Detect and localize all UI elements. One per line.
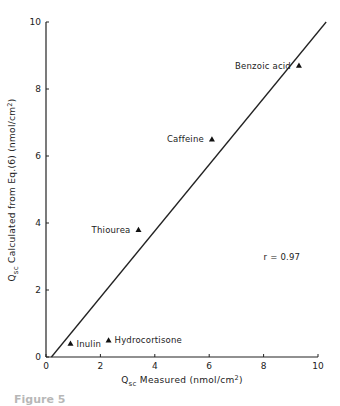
y-axis-title: Qsc Calculated from Eq.(6) (nmol/cm2)	[6, 98, 20, 281]
y-tick-label: 2	[35, 285, 41, 295]
y-tick-label: 8	[35, 84, 41, 94]
triangle-marker-icon	[106, 337, 112, 342]
x-tick-label: 4	[152, 361, 158, 371]
correlation-annotation: r = 0.97	[264, 252, 301, 262]
y-tick-label: 6	[35, 151, 41, 161]
x-tick-label: 8	[261, 361, 267, 371]
fit-line	[51, 22, 326, 357]
data-point: Benzoic acid	[235, 61, 302, 71]
x-tick-label: 6	[206, 361, 212, 371]
x-axis-title: Qsc Measured (nmol/cm2)	[121, 374, 243, 388]
point-label: Hydrocortisone	[115, 335, 182, 345]
triangle-marker-icon	[67, 341, 73, 346]
triangle-marker-icon	[296, 63, 302, 68]
y-tick-label: 0	[35, 352, 41, 362]
x-tick-label: 2	[98, 361, 104, 371]
point-label: Caffeine	[167, 134, 204, 144]
data-points: InulinHydrocortisoneThioureaCaffeineBenz…	[67, 61, 301, 349]
point-label: Inulin	[76, 339, 101, 349]
point-label: Thiourea	[91, 225, 131, 235]
data-point: Caffeine	[167, 134, 215, 144]
figure-caption: Figure 5	[14, 393, 65, 406]
point-label: Benzoic acid	[235, 61, 291, 71]
data-point: Hydrocortisone	[106, 335, 182, 345]
triangle-marker-icon	[209, 136, 215, 141]
data-point: Inulin	[67, 339, 101, 349]
x-tick-label: 0	[43, 361, 49, 371]
x-tick-label: 10	[312, 361, 324, 371]
triangle-marker-icon	[135, 227, 141, 232]
y-tick-label: 4	[35, 218, 41, 228]
y-tick-label: 10	[30, 17, 42, 27]
data-point: Thiourea	[91, 225, 142, 235]
